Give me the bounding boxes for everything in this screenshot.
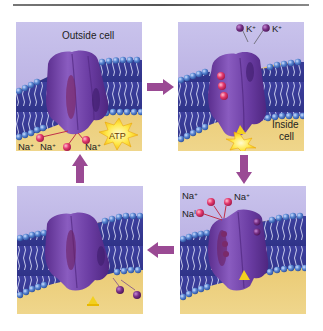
panel-step-1: Outside cell ATP Na+ Na+ Na+ <box>16 22 142 151</box>
ion-symbol: Na <box>234 191 246 202</box>
arrow-up-icon <box>71 154 89 184</box>
ion-charge: + <box>278 24 282 30</box>
ion-charge: + <box>246 192 250 198</box>
na-ion-label-3: Na+ <box>85 142 101 151</box>
ion-symbol: Na <box>182 208 194 219</box>
region-label-outside: Outside cell <box>62 31 114 41</box>
atp-label: ATP <box>109 131 126 141</box>
region-label-inside-line2: cell <box>279 132 294 142</box>
ion-symbol: Na <box>182 190 194 201</box>
arrow-right-icon <box>147 79 175 95</box>
ion-charge: + <box>252 24 256 30</box>
ion-symbol: Na <box>40 141 52 151</box>
ion-charge: + <box>97 142 101 148</box>
ion-charge: + <box>52 142 56 148</box>
ion-symbol: Na <box>85 141 97 151</box>
na-ion-label-3: NaI <box>182 209 196 219</box>
arrow-down-icon <box>235 155 253 185</box>
na-ion-label-2: Na+ <box>40 142 56 151</box>
na-ion-label-1: Na+ <box>18 142 34 151</box>
na-ion-label-1: Na+ <box>182 191 198 201</box>
ion-charge: + <box>30 142 34 148</box>
arrow-left-icon <box>147 242 175 258</box>
panel-step-4 <box>17 186 143 314</box>
ion-symbol: Na <box>18 141 30 151</box>
k-ion-label-2: K+ <box>272 24 282 34</box>
ion-charge: I <box>194 209 196 215</box>
panel-step-3: Na+ Na+ NaI <box>180 186 306 314</box>
k-ion-label-1: K+ <box>246 24 256 34</box>
na-ion-label-2: Na+ <box>234 192 250 202</box>
ion-charge: + <box>194 191 198 197</box>
region-label-inside-line1: Inside <box>272 120 299 130</box>
panel-step-2: K+ K+ Inside cell <box>178 22 304 151</box>
top-rule <box>13 4 309 6</box>
